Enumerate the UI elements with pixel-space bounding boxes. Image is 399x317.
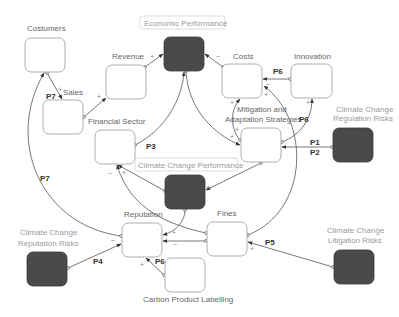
- edge-label-p3: P3: [146, 142, 156, 151]
- edge-label-p5: P5: [265, 238, 275, 247]
- sign-plus: +: [150, 53, 154, 60]
- sign-minus: –: [111, 236, 115, 243]
- edge-label-p1: P1: [310, 138, 320, 147]
- sign-minus: –: [173, 240, 177, 247]
- sign-plus: +: [206, 184, 210, 191]
- node-label: Climate Change: [327, 226, 385, 235]
- node-innovation[interactable]: Innovation: [291, 52, 332, 98]
- edge-costs-economic[interactable]: [205, 54, 223, 67]
- node-label: Litigation Risks: [328, 236, 382, 245]
- node-label: Mitigation and: [237, 105, 287, 114]
- sign-plus: +: [172, 229, 176, 236]
- sign-plus: +: [122, 169, 126, 176]
- edge-label-p2: P2: [310, 148, 320, 157]
- sign-minus: –: [216, 52, 220, 59]
- sign-minus: –: [266, 80, 270, 87]
- node-financial-sector[interactable]: Financial Sector: [88, 117, 146, 164]
- node-label: Sales: [63, 88, 83, 97]
- causal-loop-diagram: Costumers Sales Revenue Economic Perform…: [0, 0, 399, 317]
- sign-plus: +: [235, 126, 239, 133]
- node-reputation[interactable]: Reputation: [122, 210, 163, 257]
- node-label: Financial Sector: [88, 117, 146, 126]
- node-fines[interactable]: Fines: [207, 209, 247, 256]
- edge-label-p7-loop: P7: [40, 174, 50, 183]
- edge-litigation-fines[interactable]: [248, 242, 333, 267]
- node-economic-performance[interactable]: Economic Performance: [140, 16, 228, 71]
- node-revenue[interactable]: Revenue: [106, 52, 146, 99]
- edge-label-p6-mitigation: P6: [299, 115, 309, 124]
- node-label: Climate Change: [20, 228, 78, 237]
- node-label: Economic Performance: [144, 19, 228, 28]
- sign-plus: +: [230, 99, 234, 106]
- sign-minus: –: [108, 169, 112, 176]
- edge-label-p6-carbon: P6: [155, 257, 165, 266]
- node-label: Carbon Product Labelling: [143, 295, 233, 304]
- node-label: Innovation: [294, 52, 331, 61]
- edge-label-p6-innovation: P6: [273, 67, 283, 76]
- node-label: Climate Change: [336, 105, 394, 114]
- edge-sales-revenue[interactable]: [84, 98, 106, 117]
- node-label: Climate Change Performance: [138, 161, 244, 170]
- node-cc-reputation-risks[interactable]: Climate Change Reputation Risks: [18, 228, 78, 286]
- sign-plus: +: [97, 93, 101, 100]
- sign-plus: +: [306, 99, 310, 106]
- edge-label-p4: P4: [93, 257, 103, 266]
- node-label: Costs: [233, 52, 253, 61]
- sign-plus: +: [250, 245, 254, 252]
- sign-plus: +: [264, 91, 268, 98]
- edge-label-p7-sales: P7: [46, 92, 56, 101]
- node-label: Adaptation Strategies: [225, 115, 302, 124]
- node-label: Reputation Risks: [18, 239, 78, 248]
- node-costs[interactable]: Costs: [222, 52, 262, 98]
- node-label: Regulation Risks: [333, 114, 393, 123]
- node-label: Reputation: [124, 210, 163, 219]
- node-cc-regulation-risks[interactable]: Climate Change Regulation Risks: [333, 105, 394, 162]
- node-mitigation-adaptation[interactable]: Mitigation and Adaptation Strategies: [225, 105, 302, 162]
- node-cc-litigation-risks[interactable]: Climate Change Litigation Risks: [327, 226, 385, 284]
- sign-plus: +: [58, 86, 62, 93]
- node-costumers[interactable]: Costumers: [25, 24, 66, 72]
- node-label: Fines: [217, 209, 237, 218]
- sign-plus: +: [230, 133, 234, 140]
- sign-plus: +: [140, 261, 144, 268]
- node-label: Revenue: [112, 52, 145, 61]
- node-label: Costumers: [27, 24, 66, 33]
